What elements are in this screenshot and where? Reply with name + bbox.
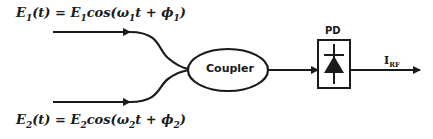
pd-label: PD [325, 25, 341, 36]
input2-equation: E2(t) = E2cos(ω2t + ϕ2) [16, 112, 186, 130]
input1-path [53, 32, 189, 69]
coupler-label: Coupler [206, 62, 254, 75]
output-label: IRF [384, 54, 400, 69]
input1-equation: E1(t) = E1cos(ω1t + ϕ1) [16, 5, 186, 23]
input2-path [53, 70, 189, 102]
